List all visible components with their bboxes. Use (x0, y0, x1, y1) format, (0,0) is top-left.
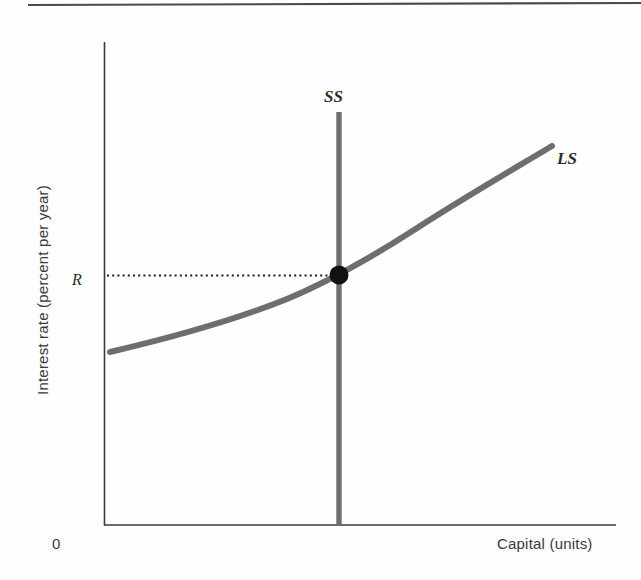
capital-market-chart: SS LS R 0 Capital (units) Interest rate … (0, 0, 641, 580)
origin-label: 0 (52, 535, 60, 552)
equilibrium-rate-tick-label: R (71, 271, 82, 288)
economics-figure: SS LS R 0 Capital (units) Interest rate … (0, 0, 641, 580)
ls-curve-label: LS (556, 149, 577, 168)
y-axis-title: Interest rate (percent per year) (34, 185, 51, 395)
page-divider-rule (28, 3, 641, 5)
x-axis-title: Capital (units) (497, 535, 593, 552)
ls-curve (110, 146, 552, 352)
equilibrium-point-dot (330, 266, 349, 285)
ss-curve-label: SS (324, 87, 343, 106)
